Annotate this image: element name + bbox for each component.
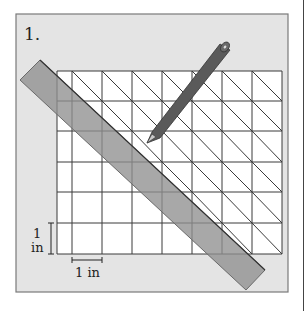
problem-number: 1. bbox=[24, 24, 40, 44]
horizontal-scale-label: 1 in bbox=[75, 265, 101, 280]
vertical-scale-label-unit: in bbox=[31, 240, 44, 255]
diagram: 1. 1 in 1 in bbox=[0, 0, 307, 311]
page-edge-rule bbox=[303, 0, 304, 311]
diagram-canvas: 1. 1 in 1 in bbox=[0, 0, 307, 311]
vertical-scale-label-number: 1 bbox=[33, 226, 41, 241]
